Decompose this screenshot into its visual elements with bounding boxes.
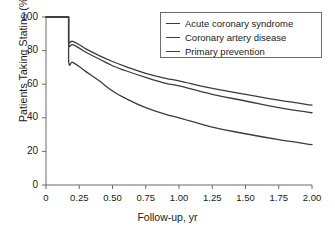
legend-item-label: Primary prevention <box>185 45 265 58</box>
legend-line-icon <box>166 51 180 52</box>
legend: Acute coronary syndrome Coronary artery … <box>160 12 322 58</box>
x-axis-label: Follow-up, yr <box>0 211 335 223</box>
statin-adherence-chart: 020406080100 00.250.500.751.001.251.501.… <box>0 0 335 232</box>
legend-item-label: Acute coronary syndrome <box>185 17 293 30</box>
legend-item-coronary-artery-disease: Coronary artery disease <box>166 31 316 44</box>
y-axis-tick-label: 20 <box>8 145 38 156</box>
legend-line-icon <box>166 37 180 38</box>
y-axis-label: Patients Taking Statins (%) <box>17 0 29 143</box>
legend-item-acute-coronary-syndrome: Acute coronary syndrome <box>166 17 316 30</box>
y-axis-tick-label: 0 <box>8 179 38 190</box>
legend-item-label: Coronary artery disease <box>185 31 286 44</box>
x-axis-tick-label: 2.00 <box>292 192 332 203</box>
legend-line-icon <box>166 23 180 24</box>
legend-item-primary-prevention: Primary prevention <box>166 45 316 58</box>
